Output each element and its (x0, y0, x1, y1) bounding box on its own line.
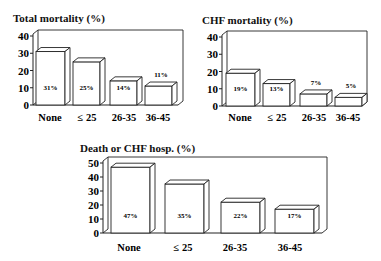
y-tick-label: 0 (94, 227, 100, 239)
plot-edge (103, 157, 108, 161)
bar-front (145, 86, 172, 105)
x-category-label: None (228, 112, 252, 123)
chart-plot: 0102030405047%None35%≤ 2522%26-3517%36-4… (70, 130, 330, 261)
x-category-label: 36-45 (146, 112, 171, 123)
chart-death-or-chf-hosp: Death or CHF hosp. (%) 0102030405047%Non… (70, 130, 330, 261)
bar (145, 82, 177, 105)
bar-side (150, 163, 155, 233)
bar-front (111, 167, 150, 233)
bar-value-label: 22% (234, 212, 248, 220)
y-tick-label: 40 (207, 31, 219, 43)
bar-top (36, 48, 70, 52)
bar-top (165, 180, 209, 184)
bar-side (314, 205, 319, 233)
bar-side (100, 58, 105, 105)
chart-plot: 01020304031%None25%≤ 2514%26-3511%36-45 (0, 0, 190, 130)
bar-side (260, 198, 265, 233)
y-tick-label: 10 (207, 83, 219, 95)
y-tick-label: 0 (213, 100, 219, 112)
x-category-label: 26-35 (223, 242, 248, 253)
y-tick-label: 10 (88, 213, 100, 225)
x-category-label: ≤ 25 (78, 112, 97, 123)
bar-value-label: 7% (311, 79, 322, 87)
bar (300, 90, 332, 106)
x-category-label: 36-45 (336, 112, 361, 123)
x-category-label: 26-35 (112, 112, 137, 123)
y-tick-label: 0 (24, 99, 30, 111)
bar-top (275, 205, 319, 209)
bar-value-label: 19% (234, 85, 248, 93)
bar-side (204, 180, 209, 233)
plot-edge (103, 229, 108, 233)
bar-value-label: 47% (124, 212, 138, 220)
y-tick-label: 30 (18, 47, 30, 59)
chart-plot: 01020304019%None13%≤ 257%26-355%36-45 (190, 0, 381, 130)
x-category-label: 36-45 (278, 242, 303, 253)
x-category-label: ≤ 25 (174, 242, 193, 253)
plot-edge (222, 31, 227, 35)
bar-value-label: 14% (117, 84, 131, 92)
bar (36, 48, 70, 105)
bar-top (221, 198, 265, 202)
bar-top (111, 163, 155, 167)
bar-value-label: 35% (178, 212, 192, 220)
y-tick-label: 20 (18, 65, 30, 77)
y-tick-label: 30 (207, 48, 219, 60)
x-category-label: ≤ 25 (268, 112, 287, 123)
bar-value-label: 13% (270, 85, 284, 93)
x-category-label: None (117, 242, 141, 253)
y-tick-label: 40 (88, 171, 100, 183)
bar (73, 58, 105, 105)
bar-front (36, 52, 65, 105)
y-tick-label: 20 (207, 66, 219, 78)
bar-side (255, 69, 260, 106)
bar-side (137, 77, 142, 105)
bar-front (300, 94, 327, 106)
bar (335, 93, 367, 106)
chart-total-mortality: Total mortality (%) 01020304031%None25%≤… (0, 0, 190, 130)
bar-value-label: 25% (80, 84, 94, 92)
y-tick-label: 20 (88, 199, 100, 211)
x-category-label: 26-35 (302, 112, 327, 123)
bar-value-label: 17% (288, 212, 302, 220)
bar-value-label: 31% (44, 84, 58, 92)
plot-edge (33, 30, 38, 34)
bar-value-label: 5% (346, 82, 357, 90)
y-tick-label: 30 (88, 185, 100, 197)
bar-value-label: 11% (154, 71, 168, 79)
y-tick-label: 10 (18, 82, 30, 94)
bar-front (165, 184, 204, 233)
bar-front (335, 97, 362, 106)
bar-side (290, 80, 295, 106)
x-category-label: None (38, 112, 62, 123)
y-tick-label: 40 (18, 30, 30, 42)
bar-side (172, 82, 177, 105)
bar-top (226, 69, 260, 73)
y-tick-label: 50 (88, 157, 100, 169)
chart-chf-mortality: CHF mortality (%) 01020304019%None13%≤ 2… (190, 0, 381, 130)
bar (165, 180, 209, 233)
bar (111, 163, 155, 233)
bar-side (65, 48, 70, 105)
